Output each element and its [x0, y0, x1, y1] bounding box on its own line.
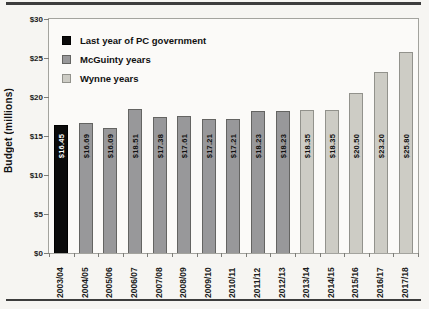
bar-value-label: $18.51	[131, 134, 140, 158]
chart-page: Budget (millions) $0$5$10$15$20$25$30 $1…	[0, 0, 429, 309]
y-tick-label: $25	[2, 54, 43, 64]
bar-value-label: $20.50	[352, 134, 361, 158]
legend-swatch	[62, 74, 71, 83]
x-axis-label: 2009/10	[201, 256, 215, 298]
x-tick-mark	[418, 253, 419, 257]
x-axis-label: 2011/12	[250, 256, 264, 298]
bar[interactable]: $20.50	[349, 93, 363, 253]
x-axis-label: 2004/05	[78, 256, 92, 298]
x-axis-label: 2008/09	[176, 256, 190, 298]
legend-item: Wynne years	[62, 69, 206, 88]
y-tick-label: $20	[2, 93, 43, 103]
bar[interactable]: $18.35	[300, 110, 314, 253]
x-axis-label-text: 2007/08	[154, 256, 164, 298]
x-axis-label-text: 2005/06	[104, 256, 114, 298]
bar-value-label: $25.80	[401, 134, 410, 158]
x-axis-label-text: 2014/15	[326, 256, 336, 298]
legend-swatch	[62, 36, 71, 45]
top-rule	[6, 2, 421, 5]
bar[interactable]: $25.80	[399, 52, 413, 253]
x-axis-label: 2014/15	[324, 256, 338, 298]
plot-area: $0$5$10$15$20$25$30 $16.45$16.69$16.09$1…	[48, 18, 419, 254]
y-tick-label: $10	[2, 171, 43, 181]
bar-value-label: $18.35	[327, 134, 336, 158]
x-axis-label: 2016/17	[373, 256, 387, 298]
x-axis-label-text: 2016/17	[375, 256, 385, 298]
bar[interactable]: $23.20	[374, 72, 388, 253]
bar[interactable]: $17.21	[226, 119, 240, 253]
bar[interactable]: $18.23	[276, 111, 290, 253]
legend: Last year of PC governmentMcGuinty years…	[62, 31, 206, 88]
x-axis-labels: 2003/042004/052005/062006/072007/082008/…	[48, 256, 417, 298]
x-axis-label-text: 2008/09	[178, 256, 188, 298]
x-axis-label-text: 2017/18	[400, 256, 410, 298]
x-axis-label-text: 2006/07	[129, 256, 139, 298]
bar-value-label: $16.45	[57, 134, 66, 158]
y-tick-label: $15	[2, 132, 43, 142]
x-axis-label-text: 2013/14	[301, 256, 311, 298]
bar-value-label: $16.69	[81, 134, 90, 158]
bar-value-label: $18.35	[303, 134, 312, 158]
bar[interactable]: $18.35	[325, 110, 339, 253]
bar[interactable]: $17.61	[177, 116, 191, 253]
y-tick-label: $30	[2, 15, 43, 25]
bar[interactable]: $17.38	[153, 117, 167, 253]
x-axis-label-text: 2009/10	[203, 256, 213, 298]
x-axis-label-text: 2011/12	[252, 256, 262, 298]
legend-item-label: Wynne years	[80, 73, 138, 84]
y-tick-label: $0	[2, 249, 43, 259]
x-axis-label-text: 2003/04	[55, 256, 65, 298]
bar-value-label: $17.61	[180, 134, 189, 158]
bar[interactable]: $18.23	[251, 111, 265, 253]
legend-item-label: McGuinty years	[80, 54, 151, 65]
bar[interactable]: $18.51	[128, 109, 142, 253]
x-axis-label: 2006/07	[127, 256, 141, 298]
y-tick-label: $5	[2, 210, 43, 220]
x-axis-label-text: 2012/13	[277, 256, 287, 298]
x-axis-label: 2013/14	[299, 256, 313, 298]
bar-value-label: $18.23	[278, 134, 287, 158]
legend-item-label: Last year of PC government	[80, 35, 206, 46]
x-axis-label: 2012/13	[275, 256, 289, 298]
bar[interactable]: $16.69	[79, 123, 93, 253]
x-axis-label-text: 2004/05	[80, 256, 90, 298]
bar-value-label: $16.09	[106, 134, 115, 158]
legend-item: McGuinty years	[62, 50, 206, 69]
bar[interactable]: $17.21	[202, 119, 216, 253]
x-axis-label: 2005/06	[102, 256, 116, 298]
bar[interactable]: $16.09	[103, 128, 117, 254]
x-axis-label: 2015/16	[348, 256, 362, 298]
x-axis-label-text: 2015/16	[350, 256, 360, 298]
x-axis-label: 2017/18	[398, 256, 412, 298]
x-axis-label: 2003/04	[53, 256, 67, 298]
x-axis-label: 2007/08	[152, 256, 166, 298]
bottom-rule	[6, 299, 421, 301]
legend-item: Last year of PC government	[62, 31, 206, 50]
legend-swatch	[62, 55, 71, 64]
bar-value-label: $17.21	[204, 134, 213, 158]
bar-value-label: $17.38	[155, 134, 164, 158]
x-axis-label-text: 2010/11	[227, 256, 237, 298]
bar[interactable]: $16.45	[54, 125, 68, 253]
bar-value-label: $18.23	[254, 134, 263, 158]
x-axis-label: 2010/11	[225, 256, 239, 298]
bar-value-label: $23.20	[377, 134, 386, 158]
bar-value-label: $17.21	[229, 134, 238, 158]
